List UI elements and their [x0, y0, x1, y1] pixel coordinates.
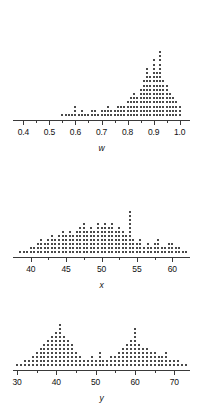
data-point	[104, 235, 106, 237]
x-axis-tick-minor	[48, 257, 49, 260]
data-point	[93, 235, 95, 237]
data-point	[149, 101, 151, 103]
data-point	[36, 356, 38, 358]
data-point	[153, 72, 155, 74]
data-point	[129, 223, 131, 225]
data-point	[162, 101, 164, 103]
data-point	[51, 364, 53, 366]
data-point	[111, 239, 113, 241]
data-point	[91, 114, 93, 116]
x-axis-tick-minor	[84, 257, 85, 260]
data-point	[127, 114, 129, 116]
data-point	[79, 360, 81, 362]
data-point	[86, 235, 88, 237]
data-point	[55, 344, 57, 346]
data-point	[67, 364, 69, 366]
data-point	[126, 356, 128, 358]
data-point	[178, 251, 180, 253]
data-point	[65, 243, 67, 245]
data-point	[177, 360, 179, 362]
x-axis-tick-label: 40	[26, 264, 35, 274]
data-point	[104, 247, 106, 249]
data-point	[69, 251, 71, 253]
data-point	[76, 231, 78, 233]
data-point	[67, 340, 69, 342]
data-point	[125, 243, 127, 245]
x-axis-tick-label: 30	[12, 377, 21, 387]
data-point	[78, 114, 80, 116]
data-point	[153, 114, 155, 116]
data-point	[115, 235, 117, 237]
data-point	[55, 360, 57, 362]
data-point	[156, 97, 158, 99]
data-point	[156, 106, 158, 108]
data-point	[172, 110, 174, 112]
data-point	[140, 106, 142, 108]
data-point	[62, 239, 64, 241]
data-point	[84, 114, 86, 116]
data-point	[107, 114, 109, 116]
data-point	[47, 243, 49, 245]
data-point	[104, 110, 106, 112]
data-point	[44, 247, 46, 249]
data-point	[134, 328, 136, 330]
x-axis-tick-minor	[115, 370, 116, 373]
data-point	[142, 348, 144, 350]
data-point	[130, 348, 132, 350]
data-point	[104, 243, 106, 245]
data-point	[63, 360, 65, 362]
data-point	[146, 356, 148, 358]
data-point	[114, 360, 116, 362]
x-axis-tick-minor	[119, 257, 120, 260]
data-point	[91, 110, 93, 112]
data-point	[126, 364, 128, 366]
data-point	[90, 231, 92, 233]
data-point	[129, 215, 131, 217]
data-point	[30, 251, 32, 253]
data-point	[47, 340, 49, 342]
data-point	[81, 114, 83, 116]
data-point	[110, 114, 112, 116]
data-point	[129, 227, 131, 229]
data-point	[142, 356, 144, 358]
data-point	[75, 356, 77, 358]
data-point	[129, 231, 131, 233]
data-point	[156, 80, 158, 82]
x-axis-tick-major	[137, 257, 138, 262]
data-point	[150, 352, 152, 354]
x-axis-tick-major	[66, 257, 67, 262]
x-axis-tick-label: 0.8	[122, 127, 133, 137]
data-point	[93, 251, 95, 253]
x-axis-tick-label: 0.9	[148, 127, 159, 137]
data-point	[136, 114, 138, 116]
data-point	[166, 114, 168, 116]
data-point	[146, 89, 148, 91]
data-point	[143, 247, 145, 249]
data-point	[156, 114, 158, 116]
data-point	[158, 356, 160, 358]
data-point	[146, 114, 148, 116]
data-point	[146, 85, 148, 87]
data-point	[90, 239, 92, 241]
data-point	[123, 114, 125, 116]
data-point	[146, 106, 148, 108]
data-point	[166, 85, 168, 87]
data-point	[153, 93, 155, 95]
data-point	[69, 231, 71, 233]
data-point	[159, 89, 161, 91]
data-point	[65, 114, 67, 116]
data-point	[83, 243, 85, 245]
data-point	[143, 93, 145, 95]
data-point	[118, 239, 120, 241]
data-point	[32, 360, 34, 362]
data-point	[47, 348, 49, 350]
data-point	[111, 235, 113, 237]
data-point	[110, 364, 112, 366]
data-point	[91, 364, 93, 366]
data-point	[166, 97, 168, 99]
x-axis-tick-minor	[115, 120, 116, 123]
data-point	[177, 364, 179, 366]
x-axis-tick-minor	[167, 120, 168, 123]
data-point	[149, 106, 151, 108]
data-point	[159, 93, 161, 95]
